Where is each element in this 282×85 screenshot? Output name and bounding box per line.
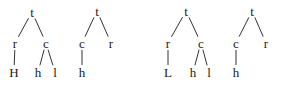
tree-node-r: r xyxy=(109,37,113,50)
tree-2 xyxy=(82,17,108,65)
tree-edge xyxy=(239,17,249,36)
tree-node-t: t xyxy=(95,5,99,18)
tree-4 xyxy=(236,17,263,65)
tree-node-c: c xyxy=(198,37,204,50)
tree-node-l: l xyxy=(207,66,211,79)
tree-node-h: h xyxy=(35,66,42,79)
tree-node-h: h xyxy=(79,66,86,79)
tree-node-c: c xyxy=(79,37,85,50)
tree-edge xyxy=(255,17,263,36)
tree-edge xyxy=(48,50,53,66)
tree-node-c: c xyxy=(43,37,49,50)
tree-edge xyxy=(171,17,182,37)
tree-edge xyxy=(35,18,43,36)
tree-edge xyxy=(14,50,15,65)
tree-edge xyxy=(203,50,207,66)
tree-edge xyxy=(100,17,108,36)
tree-node-r: r xyxy=(13,37,17,50)
tree-node-h: h xyxy=(233,66,240,79)
tree-node-H: H xyxy=(9,66,18,79)
tree-edge xyxy=(195,50,199,66)
tree-node-t: t xyxy=(30,6,34,19)
tree-node-l: l xyxy=(53,66,57,79)
tree-edge xyxy=(40,50,44,66)
tree-node-c: c xyxy=(233,37,239,50)
tree-node-t: t xyxy=(250,5,254,18)
tree-node-r: r xyxy=(166,37,170,50)
tree-edge xyxy=(18,18,28,37)
tree-edge xyxy=(85,17,94,36)
tree-node-h: h xyxy=(190,66,197,79)
tree-diagram-canvas: trcHhltcrhtrcLhltcrh xyxy=(0,0,282,85)
tree-node-L: L xyxy=(164,66,172,79)
tree-edge xyxy=(189,17,198,36)
tree-node-t: t xyxy=(184,5,188,18)
tree-node-r: r xyxy=(264,37,268,50)
